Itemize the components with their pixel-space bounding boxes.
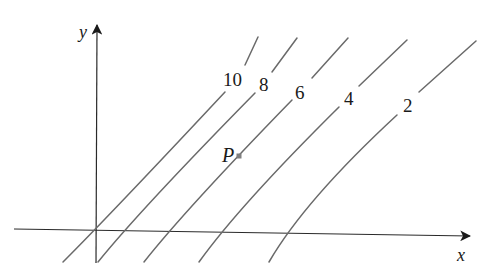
- contour-2-upper: [419, 41, 476, 92]
- contour-curves: 10 8 6 4 2: [63, 37, 476, 262]
- contour-8-lower: [98, 93, 255, 262]
- contour-label-8: 8: [259, 74, 269, 95]
- contour-4-upper: [359, 40, 407, 86]
- contour-8-upper: [272, 38, 297, 72]
- point-p-label: P: [221, 144, 234, 166]
- contour-6-upper: [312, 38, 348, 78]
- x-axis: [14, 229, 470, 236]
- contour-4-lower: [199, 107, 339, 262]
- contour-label-10: 10: [223, 69, 242, 90]
- contour-2-lower: [269, 115, 397, 262]
- x-axis-label: x: [456, 245, 465, 265]
- contour-diagram: x y 10 8 6 4 2: [0, 0, 481, 276]
- contour-10-lower: [63, 92, 225, 262]
- contour-label-2: 2: [403, 95, 413, 116]
- point-p-marker: [237, 154, 242, 159]
- y-axis-label: y: [77, 22, 87, 42]
- contour-10-upper: [245, 37, 258, 65]
- contour-6: 6: [144, 38, 348, 262]
- axes: x y: [14, 22, 470, 265]
- contour-label-6: 6: [295, 82, 305, 103]
- contour-8: 8: [98, 38, 297, 262]
- contour-label-4: 4: [344, 88, 354, 109]
- contour-2: 2: [269, 41, 476, 262]
- point-p: P: [221, 144, 242, 166]
